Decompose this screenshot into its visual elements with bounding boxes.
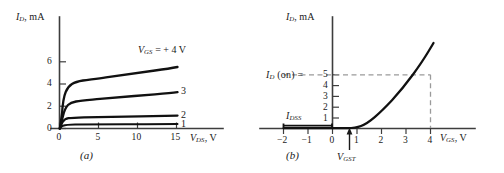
panel-b-y-tick-5: 5 [323,70,328,80]
panel-b-y-ticks [333,75,340,118]
panel-b-id-on-annotation: ID (on) = [266,70,303,81]
panel-a-plot [0,0,252,173]
panel-b-x-tick-minus1: −1 [302,136,313,146]
panel-b-y-axis-label: ID, mA [286,12,314,23]
panel-b-x-tick-2: 2 [379,136,384,146]
panel-b-y-tick-2: 2 [323,103,328,113]
panel-a-x-tick-15: 15 [171,133,181,143]
panel-b-y-tick-1: 1 [323,114,328,124]
panel-b-vgst-label: VGST [337,152,356,163]
figure-container: ID, mA VDS, V 0 2 4 6 0 5 10 15 VGS = + … [0,0,504,173]
panel-b-y-axis-unit: , mA [294,11,314,22]
panel-b-plot [252,0,504,173]
panel-b-x-tick-4: 4 [428,136,433,146]
panel-a-x-axis-unit: , V [205,132,217,143]
panel-a-curve-label-vgs4: VGS = + 4 V [138,45,186,56]
panel-b-transfer-curve [284,43,434,128]
panel-b-x-tick-3: 3 [403,136,408,146]
panel-a-curve-label-value: = + 4 V [153,44,186,55]
panel-b-x-tick-minus2: −2 [277,136,288,146]
panel-b-y-tick-3: 3 [323,92,328,102]
panel-b-idss-subscript: DSS [290,114,302,121]
panel-b-y-tick-4: 4 [323,81,328,91]
panel-b-transfer-characteristic: ID, mA VGS, V ID (on) = 5 4 3 2 1 −2 −1 … [252,0,504,173]
panel-a-curve-label-3: 3 [181,86,186,96]
panel-a-y-axis-unit: , mA [24,11,44,22]
panel-a-y-axis-label: ID, mA [16,12,44,23]
panel-b-vgst-subscript: GST [343,155,355,162]
panel-b-x-tick-1: 1 [354,136,359,146]
panel-a-caption: (a) [80,150,93,161]
panel-b-x-axis-subscript: GS [446,136,455,143]
panel-a-x-tick-10: 10 [132,133,142,143]
panel-a-x-axis-label: VDS, V [190,133,217,144]
panel-a-x-tick-5: 5 [96,133,101,143]
panel-b-idss-label: IDSS [286,111,302,122]
panel-b-caption: (b) [286,150,299,161]
panel-a-curve-vgs2 [60,116,178,129]
panel-a-y-tick-2: 2 [47,102,52,112]
panel-b-id-on-text: (on) = [275,69,304,80]
panel-a-y-tick-6: 6 [47,57,52,67]
panel-a-y-tick-4: 4 [47,79,52,89]
panel-a-x-axis-subscript: DS [196,136,205,143]
panel-a-output-characteristics: ID, mA VDS, V 0 2 4 6 0 5 10 15 VGS = + … [0,0,252,173]
panel-a-curve-label-subscript: GS [144,48,153,55]
panel-a-curve-label-1: 1 [181,119,186,129]
panel-b-x-tick-0: 0 [330,136,335,146]
panel-b-x-axis-unit: , V [455,132,467,143]
panel-b-vgst-arrow [347,128,353,151]
panel-b-idss-bracket [284,124,333,128]
panel-a-x-tick-0: 0 [57,133,62,143]
panel-a-curve-vgs3 [60,92,178,128]
panel-b-x-axis-label: VGS, V [440,133,467,144]
panel-a-y-tick-0: 0 [47,124,52,134]
